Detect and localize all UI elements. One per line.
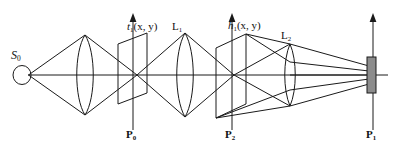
object-plane-label: P0 bbox=[126, 129, 136, 142]
ray-lens2-e bbox=[290, 84, 369, 106]
transparency-function-label: t1(x, y) bbox=[127, 21, 157, 34]
ray-lens2-d bbox=[290, 79, 369, 90]
ray-lens1-lower bbox=[185, 75, 234, 117]
ray-filter-lower bbox=[234, 75, 290, 106]
optical-diagram-svg bbox=[0, 0, 400, 150]
ray-filter-bottom-edge bbox=[216, 106, 290, 118]
image-plane-label: P1 bbox=[366, 129, 376, 142]
ray-lens1-upper bbox=[185, 33, 234, 75]
figure-canvas: S0 t1(x, y) L1 h1(x, y) L2 P0 P2 P1 bbox=[0, 0, 400, 150]
ray-lens2-b bbox=[290, 62, 369, 71]
filter-plane-label: P2 bbox=[225, 129, 235, 142]
lens-two-label: L2 bbox=[281, 30, 291, 43]
image-plane-arrow-head bbox=[370, 13, 377, 22]
lens-one-label: L1 bbox=[172, 21, 182, 34]
ray-filter-bottom-inner bbox=[216, 90, 290, 118]
ray-filter-upper bbox=[234, 44, 290, 75]
filter-plane-parallelogram bbox=[216, 34, 246, 118]
point-source-label: S0 bbox=[11, 49, 21, 63]
ray-lens2-a bbox=[290, 44, 369, 66]
impulse-response-label: h1(x, y) bbox=[228, 20, 261, 33]
detector-bar bbox=[367, 57, 376, 93]
